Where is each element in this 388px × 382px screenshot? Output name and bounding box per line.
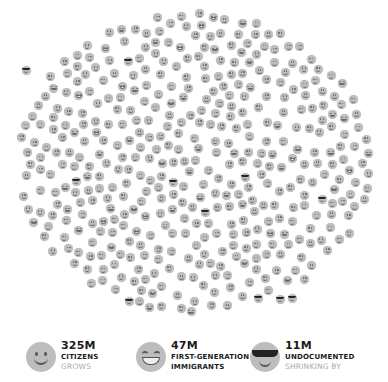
smiley-face-icon <box>306 224 315 233</box>
smiley-face-icon <box>225 91 234 100</box>
smiley-face-icon <box>161 221 170 230</box>
grinning-face-icon <box>74 226 83 235</box>
grinning-face-icon <box>118 82 127 91</box>
smiley-face-icon <box>297 253 306 262</box>
smiley-face-icon <box>201 74 210 83</box>
smiley-face-icon <box>351 178 360 187</box>
smiley-face-icon <box>276 78 285 87</box>
smiley-face-icon <box>41 92 50 101</box>
smiley-face-icon <box>207 301 216 310</box>
smiley-face-icon <box>62 88 71 97</box>
smiley-face-icon <box>36 120 45 129</box>
smiley-face-icon <box>165 264 174 273</box>
grinning-face-icon <box>237 48 246 57</box>
smiley-face-icon <box>216 56 225 65</box>
smiley-face-icon <box>345 229 354 238</box>
smiley-face-icon <box>308 104 317 113</box>
smiley-face-icon <box>300 275 309 284</box>
smiley-face-icon <box>182 73 191 82</box>
sunglasses-face-icon <box>125 297 134 306</box>
smiley-face-icon <box>181 229 190 238</box>
grinning-face-icon <box>99 217 108 226</box>
smiley-face-icon <box>166 19 175 28</box>
smiley-face-icon <box>51 188 60 197</box>
smiley-face-icon <box>300 201 309 210</box>
smiley-face-icon <box>224 139 233 148</box>
smiley-face-icon <box>250 207 259 216</box>
smiley-face-icon <box>227 220 236 229</box>
grinning-face-icon <box>330 185 339 194</box>
smiley-face-icon <box>78 210 87 219</box>
smiley-face-icon <box>232 124 241 133</box>
smiley-face-icon <box>17 133 26 142</box>
smiley-face-icon <box>253 159 262 168</box>
sunglasses-face-icon <box>276 295 285 304</box>
smiley-face-icon <box>108 183 117 192</box>
smiley-face-icon <box>211 271 220 280</box>
smiley-face-icon <box>327 122 336 131</box>
smiley-face-icon <box>280 93 289 102</box>
smiley-face-icon <box>195 118 204 127</box>
smiley-face-icon <box>218 247 227 256</box>
smiley-face-icon <box>97 251 106 260</box>
smiley-face-icon <box>227 41 236 50</box>
grinning-face-icon <box>179 93 188 102</box>
smiley-face-icon <box>262 137 271 146</box>
smiley-face-icon <box>263 179 272 188</box>
grinning-face-icon <box>151 38 160 47</box>
smiley-face-icon <box>252 19 261 28</box>
grinning-face-icon <box>194 144 203 153</box>
grinning-face-icon <box>63 205 72 214</box>
grinning-face-icon <box>74 91 83 100</box>
smiley-face-icon <box>251 30 260 39</box>
citizens-count: 325M <box>61 340 98 352</box>
smiley-face-icon <box>177 118 186 127</box>
smiley-face-icon <box>157 172 166 181</box>
smiley-face-icon <box>142 81 151 90</box>
grinning-face-icon <box>132 227 141 236</box>
smiley-face-icon <box>63 69 72 78</box>
smiley-face-icon <box>113 105 122 114</box>
smiley-face-icon <box>327 210 336 219</box>
smiley-face-icon <box>167 82 176 91</box>
smiley-face-icon <box>214 174 223 183</box>
smiley-face-icon <box>142 29 151 38</box>
smiley-face-icon <box>169 158 178 167</box>
smiley-face-icon <box>157 302 166 311</box>
smiley-face-icon <box>126 106 135 115</box>
smiley-face-icon <box>295 42 304 51</box>
grinning-face-icon <box>168 205 177 214</box>
smiley-face-icon <box>125 237 134 246</box>
smiley-face-icon <box>191 31 200 40</box>
smiley-face-icon <box>300 80 309 89</box>
smiley-face-icon <box>21 121 30 130</box>
smiley-face-icon <box>248 196 257 205</box>
smiley-face-icon <box>169 190 178 199</box>
grinning-face-icon <box>277 163 286 172</box>
smiley-face-icon <box>279 108 288 117</box>
smiley-face-icon <box>164 38 173 47</box>
smiley-face-icon <box>110 260 119 269</box>
smiley-face-icon <box>98 276 107 285</box>
smiley-face-icon <box>275 187 284 196</box>
smiley-face-icon <box>111 285 120 294</box>
smiley-face-icon <box>284 240 293 249</box>
smiley-face-icon <box>85 162 94 171</box>
grinning-face-icon <box>107 243 116 252</box>
smiley-face-icon <box>264 30 273 39</box>
smiley-face-icon <box>141 43 150 52</box>
smiley-face-icon <box>262 250 271 259</box>
smiley-face-icon <box>318 87 327 96</box>
grinning-face-icon <box>141 212 150 221</box>
smiley-face-icon <box>26 160 35 169</box>
smiley-face-icon <box>244 148 253 157</box>
smiley-face-icon <box>64 107 73 116</box>
sunglasses-face-icon <box>318 195 327 204</box>
smiley-face-icon <box>141 65 150 74</box>
smiley-face-icon <box>30 138 39 147</box>
smiley-face-icon <box>318 116 327 125</box>
sunglasses-face-icon <box>288 294 297 303</box>
smiley-face-icon <box>204 219 213 228</box>
grinning-face-icon <box>117 25 126 34</box>
smiley-face-icon <box>245 132 254 141</box>
